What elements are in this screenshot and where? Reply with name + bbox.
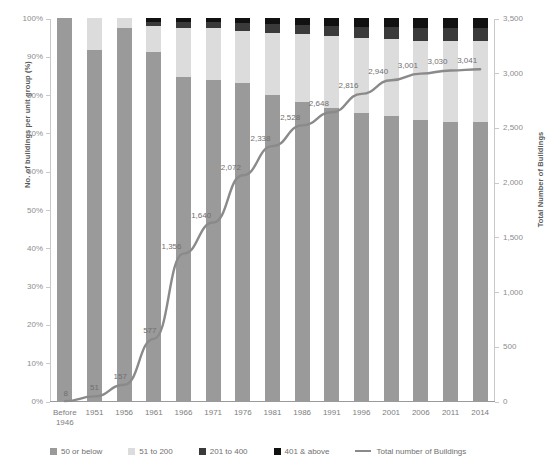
y-axis-left-tick-label: 100% [23, 15, 43, 23]
line-point-label: 2,072 [221, 163, 241, 172]
legend-item-label: 401 & above [285, 447, 330, 456]
y-axis-left-title: No. of buildings per unit group (%) [23, 40, 32, 210]
y-axis-right-tick-label: 2,000 [503, 179, 523, 187]
total-buildings-line [65, 69, 480, 401]
legend-item-label: Total number of Buildings [376, 447, 466, 456]
legend-swatch-icon [199, 448, 206, 455]
plot-area: 0%10%20%30%40%50%60%70%80%90%100% 05001,… [50, 19, 495, 402]
legend-item[interactable]: Total number of Buildings [355, 447, 466, 456]
y-axis-left-tick-label: 50% [27, 207, 43, 215]
y-axis-left-tick-label: 20% [27, 321, 43, 329]
x-axis-label: Before 1946 [50, 408, 80, 428]
line-point-label: 2,816 [338, 80, 358, 89]
y-axis-right-tick-label: 1,000 [503, 289, 523, 297]
y-axis-right-title: Total Number of Buildings [536, 95, 545, 265]
legend-swatch-icon [274, 448, 281, 455]
line-point-label: 8 [64, 389, 68, 398]
x-axis-label: 2011 [436, 408, 466, 418]
legend-item[interactable]: 50 or below [50, 447, 102, 456]
line-point-label: 2,338 [250, 134, 270, 143]
x-axis-label: 2006 [406, 408, 436, 418]
legend-item[interactable]: 401 & above [274, 447, 330, 456]
y-axis-left-tick-label: 30% [27, 283, 43, 291]
legend-item-label: 201 to 400 [210, 447, 248, 456]
x-axis-label: 1996 [347, 408, 377, 418]
legend-line-marker-icon [355, 450, 371, 452]
y-axis-left-tick-label: 70% [27, 130, 43, 138]
line-point-label: 1,640 [191, 210, 211, 219]
y-axis-right-tick-label: 0 [503, 398, 507, 406]
line-point-label: 2,528 [280, 113, 300, 122]
line-point-label: 2,648 [309, 99, 329, 108]
x-axis-label: 2014 [465, 408, 495, 418]
legend-swatch-icon [50, 448, 57, 455]
x-axis-label: 1976 [228, 408, 258, 418]
x-axis-label: 1956 [109, 408, 139, 418]
x-axis-label: 2001 [376, 408, 406, 418]
y-axis-left-tick-label: 40% [27, 245, 43, 253]
legend-item-label: 50 or below [61, 447, 102, 456]
x-axis-label: 1991 [317, 408, 347, 418]
x-axis-label: 1966 [169, 408, 199, 418]
line-point-label: 3,030 [427, 57, 447, 66]
y-axis-left-tick-label: 0% [31, 398, 43, 406]
y-axis-right-tick-label: 3,000 [503, 70, 523, 78]
y-axis-right-tick [495, 292, 499, 293]
line-point-label: 3,041 [457, 56, 477, 65]
y-axis-right-tick [495, 128, 499, 129]
y-axis-left-tick-label: 90% [27, 53, 43, 61]
y-axis-right-tick [495, 237, 499, 238]
y-axis-right-tick [495, 19, 499, 20]
chart-legend: 50 or below51 to 200201 to 400401 & abov… [50, 444, 520, 458]
line-point-label: 157 [113, 371, 126, 380]
x-axis-label: 1971 [198, 408, 228, 418]
x-axis-label: 1961 [139, 408, 169, 418]
line-point-label: 1,356 [161, 241, 181, 250]
y-axis-right-tick-label: 3,500 [503, 15, 523, 23]
legend-item[interactable]: 201 to 400 [199, 447, 248, 456]
y-axis-right-tick-label: 2,500 [503, 124, 523, 132]
legend-swatch-icon [128, 448, 135, 455]
x-axis-label: 1981 [258, 408, 288, 418]
line-point-label: 3,001 [398, 60, 418, 69]
y-axis-left-tick-label: 80% [27, 92, 43, 100]
line-series-layer [50, 19, 495, 402]
y-axis-right-tick-label: 1,500 [503, 234, 523, 242]
x-axis-label: 1986 [287, 408, 317, 418]
x-axis-label: 1951 [80, 408, 110, 418]
chart-root: No. of buildings per unit group (%) Tota… [0, 0, 560, 464]
y-axis-right-tick [495, 73, 499, 74]
y-axis-right-tick [495, 183, 499, 184]
y-axis-left-tick-label: 60% [27, 168, 43, 176]
y-axis-right-tick-label: 500 [503, 343, 516, 351]
y-axis-right-tick [495, 402, 499, 403]
line-point-label: 577 [143, 325, 156, 334]
y-axis-right-tick [495, 347, 499, 348]
line-point-label: 51 [90, 383, 99, 392]
legend-item[interactable]: 51 to 200 [128, 447, 172, 456]
line-point-label: 2,940 [368, 67, 388, 76]
y-axis-left-tick-label: 10% [27, 360, 43, 368]
legend-item-label: 51 to 200 [139, 447, 172, 456]
